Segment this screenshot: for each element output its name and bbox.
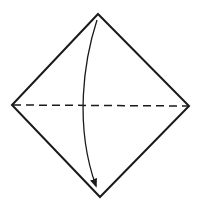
origami-diagram <box>0 0 198 211</box>
valley-fold-line <box>13 105 188 106</box>
fold-down-arrow-icon <box>83 20 97 186</box>
